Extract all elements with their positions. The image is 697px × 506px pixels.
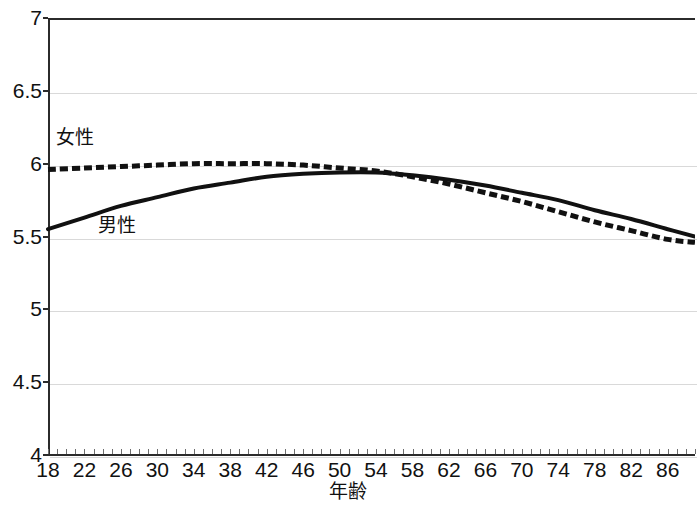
x-axis-line xyxy=(48,454,695,456)
x-tick-label: 34 xyxy=(174,459,214,481)
x-minor-tick xyxy=(121,449,122,454)
x-minor-tick xyxy=(212,449,213,454)
y-tick-label: 6 xyxy=(0,153,42,174)
x-tick-label: 26 xyxy=(101,459,141,481)
x-minor-tick xyxy=(66,449,67,454)
x-minor-tick xyxy=(413,449,414,454)
x-minor-tick xyxy=(467,449,468,454)
gridline xyxy=(50,311,697,312)
x-minor-tick xyxy=(485,449,486,454)
x-tick-label: 82 xyxy=(611,459,651,481)
x-minor-tick xyxy=(649,449,650,454)
x-minor-tick xyxy=(558,449,559,454)
x-minor-tick xyxy=(403,449,404,454)
x-minor-tick xyxy=(176,449,177,454)
x-minor-tick xyxy=(321,449,322,454)
x-minor-tick xyxy=(659,449,660,454)
x-minor-tick xyxy=(522,449,523,454)
x-minor-tick xyxy=(513,449,514,454)
x-minor-tick xyxy=(303,449,304,454)
x-tick-label: 18 xyxy=(28,459,68,481)
x-tick-label: 42 xyxy=(247,459,287,481)
x-minor-tick xyxy=(130,449,131,454)
x-minor-tick xyxy=(248,449,249,454)
gridline xyxy=(50,166,697,167)
x-minor-tick xyxy=(577,449,578,454)
series-label-female: 女性 xyxy=(56,128,94,148)
x-minor-tick xyxy=(495,449,496,454)
y-tick-label: 4.5 xyxy=(0,371,42,392)
x-tick-label: 78 xyxy=(575,459,615,481)
x-minor-tick xyxy=(695,449,696,454)
x-minor-tick xyxy=(139,449,140,454)
x-tick-label: 86 xyxy=(648,459,688,481)
x-minor-tick xyxy=(367,449,368,454)
x-minor-tick xyxy=(185,449,186,454)
x-minor-tick xyxy=(94,449,95,454)
y-tick-label: 5 xyxy=(0,298,42,319)
x-minor-tick xyxy=(458,449,459,454)
plot-area xyxy=(48,18,695,455)
x-tick-label: 30 xyxy=(137,459,177,481)
x-axis-title: 年齢 xyxy=(0,482,695,502)
x-minor-tick xyxy=(166,449,167,454)
x-minor-tick xyxy=(340,449,341,454)
x-tick-label: 46 xyxy=(283,459,323,481)
x-minor-tick xyxy=(258,449,259,454)
x-minor-tick xyxy=(312,449,313,454)
x-minor-tick xyxy=(613,449,614,454)
x-minor-tick xyxy=(376,449,377,454)
x-minor-tick xyxy=(276,449,277,454)
x-tick-label: 58 xyxy=(393,459,433,481)
x-minor-tick xyxy=(285,449,286,454)
x-minor-tick xyxy=(549,449,550,454)
x-minor-tick xyxy=(239,449,240,454)
x-minor-tick xyxy=(230,449,231,454)
x-minor-tick xyxy=(358,449,359,454)
x-minor-tick xyxy=(640,449,641,454)
x-tick-label: 70 xyxy=(502,459,542,481)
x-minor-tick xyxy=(267,449,268,454)
x-minor-tick xyxy=(294,449,295,454)
y-tick-label: 6.5 xyxy=(0,80,42,101)
x-tick-label: 38 xyxy=(210,459,250,481)
x-minor-tick xyxy=(422,449,423,454)
x-minor-tick xyxy=(631,449,632,454)
x-minor-tick xyxy=(203,449,204,454)
x-minor-tick xyxy=(686,449,687,454)
gridline xyxy=(50,239,697,240)
x-tick-label: 62 xyxy=(429,459,469,481)
x-minor-tick xyxy=(531,449,532,454)
x-minor-tick xyxy=(622,449,623,454)
y-tick-label: 7 xyxy=(0,7,42,28)
x-tick-label: 74 xyxy=(538,459,578,481)
x-minor-tick xyxy=(540,449,541,454)
x-minor-tick xyxy=(57,449,58,454)
x-tick-label: 22 xyxy=(64,459,104,481)
x-minor-tick xyxy=(194,449,195,454)
x-minor-tick xyxy=(677,449,678,454)
x-minor-tick xyxy=(385,449,386,454)
x-minor-tick xyxy=(431,449,432,454)
x-minor-tick xyxy=(112,449,113,454)
x-tick-label: 50 xyxy=(320,459,360,481)
x-minor-tick xyxy=(84,449,85,454)
x-minor-tick xyxy=(476,449,477,454)
x-minor-tick xyxy=(349,449,350,454)
gridline xyxy=(50,93,697,94)
x-minor-tick xyxy=(504,449,505,454)
x-minor-tick xyxy=(48,449,49,454)
x-minor-tick xyxy=(449,449,450,454)
gridline xyxy=(50,384,697,385)
x-minor-tick xyxy=(604,449,605,454)
x-minor-tick xyxy=(394,449,395,454)
x-tick-label: 66 xyxy=(465,459,505,481)
x-minor-tick xyxy=(221,449,222,454)
y-tick-label: 5.5 xyxy=(0,226,42,247)
x-minor-tick xyxy=(148,449,149,454)
x-minor-tick xyxy=(567,449,568,454)
series-label-male: 男性 xyxy=(98,216,136,236)
x-minor-tick xyxy=(586,449,587,454)
x-minor-tick xyxy=(157,449,158,454)
